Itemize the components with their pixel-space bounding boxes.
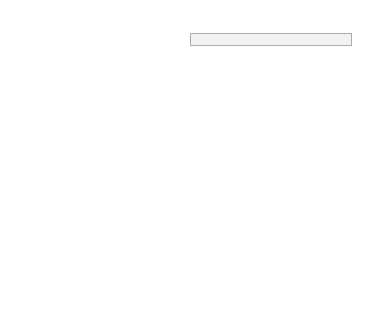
annotation-callout — [190, 33, 352, 46]
scatter-plot-canvas — [0, 0, 373, 316]
figure-panel-c — [0, 0, 373, 316]
